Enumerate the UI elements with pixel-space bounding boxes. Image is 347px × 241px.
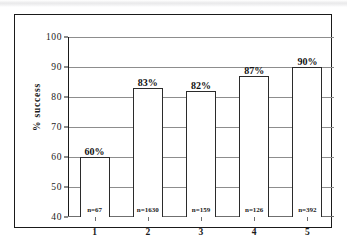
bar[interactable]: 60%n=67 bbox=[80, 157, 110, 217]
bar-group: 87%n=1264 bbox=[228, 37, 281, 217]
bar[interactable]: 90%n=392 bbox=[292, 67, 322, 217]
bar-value-label: 83% bbox=[138, 77, 158, 88]
bar[interactable]: 83%n=1630 bbox=[133, 88, 163, 217]
x-axis-tick-label: 1 bbox=[92, 227, 97, 237]
bar[interactable]: 82%n=159 bbox=[186, 91, 216, 217]
bar-group: 82%n=1593 bbox=[174, 37, 227, 217]
bar-group: 90%n=3925 bbox=[281, 37, 334, 217]
bar-series: 60%n=67183%n=1630282%n=159387%n=126490%n… bbox=[68, 37, 334, 217]
bar-sample-size-label: n=126 bbox=[245, 206, 263, 214]
x-axis-tick-mark bbox=[201, 217, 202, 221]
x-axis-tick-mark bbox=[95, 217, 96, 221]
x-axis-tick-label: 5 bbox=[305, 227, 310, 237]
bar-value-label: 90% bbox=[297, 56, 317, 67]
x-axis-tick-mark bbox=[148, 217, 149, 221]
plot-area: 100 90 80 70 60 50 40 60%n=67183%n=16302… bbox=[68, 37, 334, 217]
bar[interactable]: 87%n=126 bbox=[239, 76, 269, 217]
x-axis-tick-mark bbox=[254, 217, 255, 221]
bar-group: 83%n=16302 bbox=[121, 37, 174, 217]
bar-value-label: 87% bbox=[244, 65, 264, 76]
bar-sample-size-label: n=392 bbox=[298, 206, 316, 214]
bar-sample-size-label: n=159 bbox=[192, 206, 210, 214]
y-axis-title: % success bbox=[32, 83, 42, 131]
bar-sample-size-label: n=67 bbox=[87, 206, 102, 214]
bar-sample-size-label: n=1630 bbox=[137, 206, 159, 214]
x-axis-tick-label: 2 bbox=[145, 227, 150, 237]
x-axis-tick-mark bbox=[307, 217, 308, 221]
bar-value-label: 60% bbox=[85, 146, 105, 157]
scan-top-band bbox=[0, 0, 347, 7]
bar-value-label: 82% bbox=[191, 80, 211, 91]
x-axis-tick-label: 4 bbox=[252, 227, 257, 237]
chart-frame: % success 100 90 80 70 60 50 40 bbox=[14, 14, 332, 228]
x-axis-tick-label: 3 bbox=[199, 227, 204, 237]
bar-group: 60%n=671 bbox=[68, 37, 121, 217]
